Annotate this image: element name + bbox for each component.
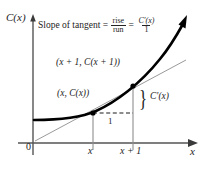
x-tick-label-x-plus-1: x + 1 <box>120 146 141 156</box>
formula-equals-sign: = <box>129 21 134 31</box>
y-axis-label: C(x) <box>6 12 26 23</box>
point-x1-cx1 <box>130 83 135 88</box>
marginal-cost-tangent-figure: C(x) x 0 x x + 1 Slope of tangent = rise… <box>0 0 209 170</box>
fraction-denominator-run: run <box>111 25 126 34</box>
x-tick-label-x: x <box>88 146 92 156</box>
fraction-denominator-one: 1 <box>142 25 150 34</box>
rise-brace: } <box>139 86 147 110</box>
fraction-numerator-derivative: C′(x) <box>136 17 156 25</box>
y-axis-arrowhead <box>30 14 36 22</box>
point-label-upper: (x + 1, C(x + 1)) <box>56 58 120 68</box>
slope-formula: Slope of tangent = rise run = C′(x) 1 <box>38 17 156 35</box>
fraction-numerator-rise: rise <box>111 17 127 25</box>
curve-arrowhead <box>179 15 188 29</box>
x-axis-label: x <box>190 146 195 157</box>
run-length-label: 1 <box>108 117 113 126</box>
formula-lead-text: Slope of tangent = <box>38 21 108 31</box>
fraction-derivative-over-one: C′(x) 1 <box>136 17 156 35</box>
rise-label: C′(x) <box>150 92 169 102</box>
cost-curve <box>34 24 183 120</box>
point-label-lower: (x, C(x)) <box>57 89 89 99</box>
origin-label: 0 <box>26 142 31 152</box>
point-x-cx <box>90 110 95 115</box>
fraction-rise-over-run: rise run <box>111 17 127 35</box>
